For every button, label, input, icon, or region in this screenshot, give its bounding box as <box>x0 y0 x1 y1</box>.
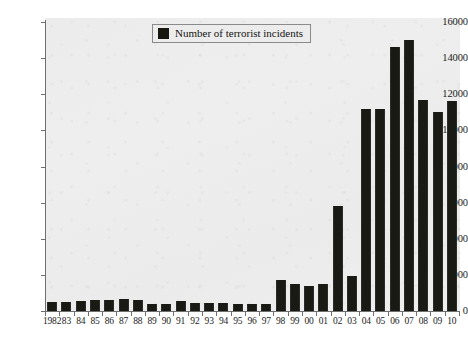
bar <box>333 206 343 311</box>
bar <box>104 300 114 311</box>
y-tick-mark <box>41 167 46 168</box>
bar <box>233 304 243 311</box>
x-tick-mark <box>445 311 446 316</box>
x-tick-mark <box>59 311 60 316</box>
bar <box>390 47 400 311</box>
bar <box>447 101 457 311</box>
x-tick-mark <box>288 311 289 316</box>
x-tick-mark <box>202 311 203 316</box>
x-axis-line <box>45 311 459 312</box>
x-tick-mark <box>173 311 174 316</box>
x-tick-mark <box>259 311 260 316</box>
x-tick-mark <box>74 311 75 316</box>
y-tick-mark <box>41 203 46 204</box>
x-tick-mark <box>373 311 374 316</box>
x-tick-mark <box>359 311 360 316</box>
y-tick-mark <box>41 239 46 240</box>
bar <box>290 284 300 311</box>
y-tick-mark <box>41 275 46 276</box>
y-tick-mark <box>41 58 46 59</box>
x-tick-mark <box>331 311 332 316</box>
bar <box>361 109 371 311</box>
x-tick-mark <box>102 311 103 316</box>
y-tick-mark <box>41 22 46 23</box>
bar <box>433 112 443 311</box>
x-tick-mark <box>302 311 303 316</box>
bar <box>418 100 428 311</box>
bar <box>61 302 71 311</box>
bar <box>304 286 314 311</box>
bar <box>176 301 186 311</box>
x-tick-mark <box>273 311 274 316</box>
bar <box>375 109 385 311</box>
chart-container: 0200040006000800010000120001400016000 19… <box>0 0 468 345</box>
y-tick-mark <box>41 130 46 131</box>
bar <box>47 302 57 311</box>
legend-swatch-icon <box>158 28 169 39</box>
x-tick-mark <box>345 311 346 316</box>
x-tick-mark <box>145 311 146 316</box>
bar <box>190 303 200 311</box>
bar <box>119 299 129 311</box>
chart-legend: Number of terrorist incidents <box>152 24 311 43</box>
legend-label: Number of terrorist incidents <box>175 28 303 39</box>
x-tick-label: 10 <box>439 317 465 327</box>
bar <box>218 303 228 311</box>
x-tick-mark <box>88 311 89 316</box>
bar <box>204 303 214 311</box>
x-tick-mark <box>159 311 160 316</box>
bar <box>247 304 257 311</box>
y-tick-mark <box>41 94 46 95</box>
x-tick-mark <box>388 311 389 316</box>
bar <box>276 280 286 311</box>
bar <box>261 304 271 311</box>
bar <box>404 40 414 311</box>
y-tick-label: 14000 <box>428 53 468 64</box>
bar <box>318 284 328 311</box>
x-tick-mark <box>402 311 403 316</box>
bar <box>147 304 157 311</box>
bar <box>161 304 171 311</box>
x-tick-mark <box>131 311 132 316</box>
x-tick-mark <box>116 311 117 316</box>
bar <box>76 301 86 311</box>
x-tick-mark <box>245 311 246 316</box>
y-tick-label: 16000 <box>428 17 468 28</box>
y-tick-label: 12000 <box>428 89 468 100</box>
x-tick-mark <box>459 311 460 316</box>
bar <box>347 276 357 311</box>
bar <box>133 300 143 311</box>
x-tick-mark <box>316 311 317 316</box>
x-tick-mark <box>416 311 417 316</box>
x-tick-mark <box>216 311 217 316</box>
x-tick-mark <box>188 311 189 316</box>
x-tick-mark <box>231 311 232 316</box>
x-tick-mark <box>430 311 431 316</box>
bar <box>90 300 100 311</box>
